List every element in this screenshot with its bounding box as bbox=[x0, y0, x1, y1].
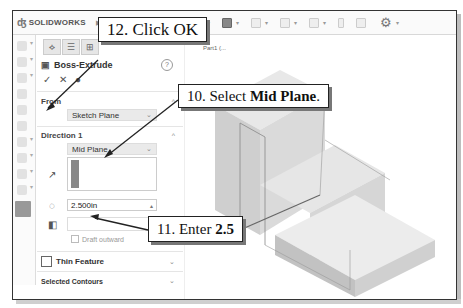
callout-step-12: 12. Click OK bbox=[98, 17, 207, 42]
callout-step-11: 11. Enter 2.5 bbox=[148, 216, 243, 242]
callout-arrows bbox=[0, 0, 463, 308]
callout-step-10: 10. Select Mid Plane. bbox=[178, 84, 329, 108]
